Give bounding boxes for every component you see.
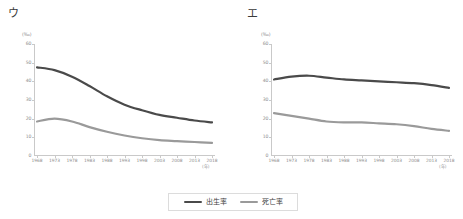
panel-label-e: エ xyxy=(247,8,258,19)
series-line-death-rate-e xyxy=(274,113,449,131)
y-tick-label-e: 20 xyxy=(263,116,269,121)
x-tick-label-e: 1978 xyxy=(303,159,314,163)
series-line-birth-rate-u xyxy=(37,67,212,122)
y-tick-label-e: 40 xyxy=(263,79,269,84)
x-tick-label-u: 1993 xyxy=(119,159,130,163)
y-tick-label-e: 50 xyxy=(263,60,269,65)
x-tick-label-u: 1978 xyxy=(66,159,77,163)
legend-label-death-rate: 死亡率 xyxy=(262,199,283,206)
y-tick-label-e: 30 xyxy=(263,98,269,103)
y-unit-label-u: (‰) xyxy=(22,33,31,38)
y-tick-label-u: 40 xyxy=(26,79,32,84)
chart-panel-u: ウ (‰) 0 (年) 1020304050601968197319781983… xyxy=(0,0,232,182)
legend-swatch-birth-rate xyxy=(184,201,202,204)
x-tick-label-u: 2003 xyxy=(154,159,165,163)
y-tick-label-u: 60 xyxy=(26,42,32,47)
y-tick-label-e: 60 xyxy=(263,42,269,47)
chart-legend: 出生率 死亡率 xyxy=(168,193,298,211)
x-unit-label-e: (年) xyxy=(439,165,446,169)
legend-swatch-death-rate xyxy=(240,201,258,204)
x-tick-label-e: 1988 xyxy=(338,159,349,163)
x-tick-label-e: 1973 xyxy=(286,159,297,163)
legend-label-birth-rate: 出生率 xyxy=(206,199,227,206)
y-tick-label-u: 20 xyxy=(26,116,32,121)
y-unit-label-e: (‰) xyxy=(261,33,270,38)
legend-entry-birth-rate: 出生率 xyxy=(184,199,227,206)
x-tick-label-e: 1998 xyxy=(373,159,384,163)
x-tick-label-e: 2013 xyxy=(426,159,437,163)
x-tick-label-u: 1968 xyxy=(31,159,42,163)
figure-root: ウ (‰) 0 (年) 1020304050601968197319781983… xyxy=(0,0,463,219)
y-tick-label-e: 10 xyxy=(263,135,269,140)
y-tick-label-u: 30 xyxy=(26,98,32,103)
x-tick-label-u: 1988 xyxy=(101,159,112,163)
x-tick-label-e: 2008 xyxy=(408,159,419,163)
x-tick-label-e: 2018 xyxy=(443,159,454,163)
x-tick-label-u: 1973 xyxy=(49,159,60,163)
x-tick-label-e: 1983 xyxy=(321,159,332,163)
series-line-birth-rate-e xyxy=(274,76,449,88)
plot-area-e: 0 (年) 1020304050601968197319781983198819… xyxy=(271,44,452,156)
plot-area-u: 0 (年) 1020304050601968197319781983198819… xyxy=(34,44,215,156)
x-unit-label-u: (年) xyxy=(202,165,209,169)
panel-label-u: ウ xyxy=(8,8,19,19)
x-tick-label-u: 2008 xyxy=(171,159,182,163)
x-tick-label-u: 1998 xyxy=(136,159,147,163)
y-tick-label-u: 10 xyxy=(26,135,32,140)
series-layer-e xyxy=(271,44,452,156)
x-tick-label-u: 2013 xyxy=(189,159,200,163)
x-tick-label-u: 2018 xyxy=(206,159,217,163)
chart-panel-e: エ (‰) 0 (年) 1020304050601968197319781983… xyxy=(237,0,463,182)
x-tick-label-e: 2003 xyxy=(391,159,402,163)
legend-entry-death-rate: 死亡率 xyxy=(240,199,283,206)
x-tick-label-u: 1983 xyxy=(84,159,95,163)
y-tick-label-u: 50 xyxy=(26,60,32,65)
series-line-death-rate-u xyxy=(37,119,212,143)
series-layer-u xyxy=(34,44,215,156)
x-tick-label-e: 1968 xyxy=(268,159,279,163)
x-tick-label-e: 1993 xyxy=(356,159,367,163)
